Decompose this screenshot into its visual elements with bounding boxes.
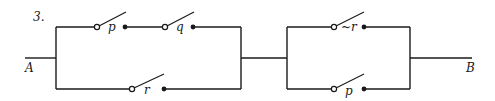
switch-r: r [129, 74, 166, 97]
switch-not-r-label: ~r [341, 20, 358, 34]
switch-p-right: p [331, 74, 366, 98]
switch-contact-open [331, 24, 336, 29]
top-branch-series: p q [56, 12, 241, 34]
switch-r-label: r [144, 83, 151, 97]
switch-contact-open [129, 86, 134, 91]
right-top-branch-not-r: ~r [287, 12, 410, 34]
switch-contact-open [331, 86, 336, 91]
terminal-a-label: A [24, 61, 34, 75]
problem-number: 3. [33, 10, 44, 24]
switch-contact-open [162, 24, 167, 29]
switch-q-label: q [176, 20, 184, 34]
switch-not-r: ~r [331, 12, 366, 34]
right-bottom-branch-p: p [287, 74, 410, 98]
terminal-b-label: B [465, 61, 475, 75]
switch-contact-open [94, 24, 99, 29]
switch-p-right-label: p [345, 84, 353, 98]
circuit-diagram: 3. A p q r [0, 0, 495, 101]
switch-p-label: p [108, 20, 116, 34]
bottom-branch-r: r [56, 74, 241, 97]
switch-q: q [162, 12, 195, 34]
switch-p: p [94, 12, 127, 34]
